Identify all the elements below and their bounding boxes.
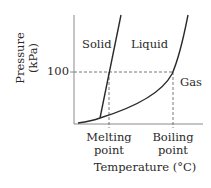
vaporization-curve — [100, 15, 188, 118]
y-tick-label-100: 100 — [47, 65, 69, 78]
melting-point-line2: point — [84, 144, 134, 157]
y-axis-label: Pressure (kPa) — [14, 18, 40, 98]
region-label-gas: Gas — [180, 76, 202, 89]
region-label-liquid: Liquid — [131, 38, 168, 51]
melting-point-label: Melting point — [84, 131, 134, 157]
sublimation-curve — [78, 118, 100, 123]
boiling-point-label: Boiling point — [148, 131, 198, 157]
y-axis-label-line2: (kPa) — [27, 18, 40, 98]
boiling-point-line2: point — [148, 144, 198, 157]
phase-diagram: Pressure (kPa) 100 Solid Liquid Gas Melt… — [0, 0, 211, 188]
fusion-curve — [100, 15, 121, 118]
region-label-solid: Solid — [82, 38, 112, 51]
x-axis-label: Temperature (°C) — [90, 161, 200, 174]
